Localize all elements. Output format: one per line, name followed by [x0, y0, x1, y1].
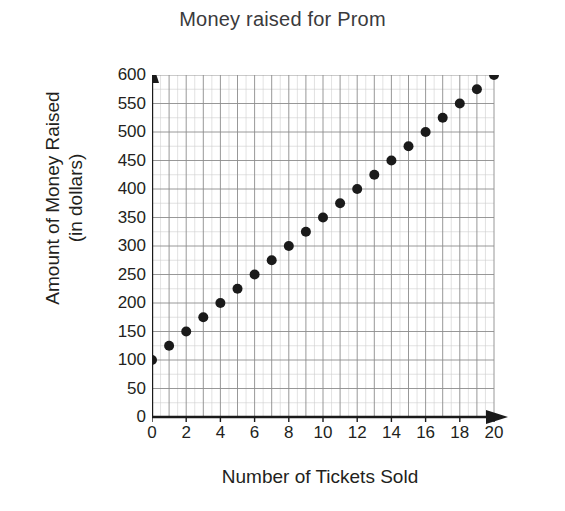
origin-label: 0: [137, 407, 146, 427]
axis-lines: [152, 75, 508, 424]
data-point: [335, 198, 345, 208]
major-gridlines: [152, 75, 494, 417]
chart-grid-and-points: [152, 75, 512, 435]
y-tick-label: 450: [118, 151, 146, 171]
data-point: [369, 170, 379, 180]
y-axis-label-line-2: (in dollars): [64, 48, 87, 348]
data-point: [164, 341, 174, 351]
data-point: [352, 184, 362, 194]
y-tick-label: 500: [118, 122, 146, 142]
data-point: [421, 127, 431, 137]
data-point: [404, 141, 414, 151]
data-point: [198, 312, 208, 322]
data-point: [438, 113, 448, 123]
data-point: [301, 227, 311, 237]
y-tick-label: 300: [118, 236, 146, 256]
x-tick-label: 10: [314, 423, 333, 443]
data-point: [318, 213, 328, 223]
data-point: [233, 284, 243, 294]
y-tick-label: 100: [118, 350, 146, 370]
y-tick-label: 50: [127, 379, 146, 399]
x-tick-label: 16: [416, 423, 435, 443]
x-tick-label: 14: [382, 423, 401, 443]
x-tick-label: 18: [450, 423, 469, 443]
data-point: [152, 355, 157, 365]
x-tick-label: 0: [147, 423, 156, 443]
data-point: [250, 270, 260, 280]
x-tick-label: 2: [181, 423, 190, 443]
y-tick-label: 350: [118, 208, 146, 228]
y-tick-label: 550: [118, 94, 146, 114]
x-tick-label: 20: [485, 423, 504, 443]
y-tick-label: 600: [118, 65, 146, 85]
chart-figure: Money raised for Prom Amount of Money Ra…: [0, 0, 565, 511]
y-tick-label: 150: [118, 322, 146, 342]
plot-area: 0 50100150200250300350400450500550600 02…: [152, 75, 494, 417]
x-axis-label: Number of Tickets Sold: [110, 466, 530, 488]
y-tick-label: 200: [118, 293, 146, 313]
data-point: [215, 298, 225, 308]
data-point: [267, 255, 277, 265]
data-point: [455, 99, 465, 109]
data-point: [489, 75, 499, 80]
data-point: [472, 84, 482, 94]
x-tick-label: 12: [348, 423, 367, 443]
data-points: [152, 75, 499, 365]
y-axis-label-line-1: Amount of Money Raised: [41, 48, 64, 348]
data-point: [181, 327, 191, 337]
x-tick-label: 4: [216, 423, 225, 443]
x-tick-label: 8: [284, 423, 293, 443]
y-tick-label: 250: [118, 265, 146, 285]
data-point: [284, 241, 294, 251]
data-point: [386, 156, 396, 166]
x-tick-label: 6: [250, 423, 259, 443]
chart-title: Money raised for Prom: [0, 8, 565, 31]
y-tick-label: 400: [118, 179, 146, 199]
